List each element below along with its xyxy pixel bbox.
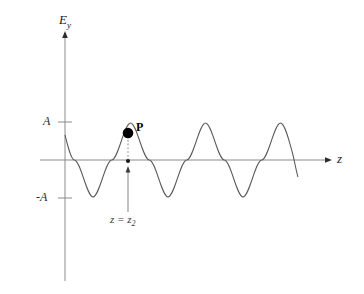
point-P-label: P (136, 121, 143, 133)
wave-diagram-figure: Ey z A -A P z = z2 (0, 0, 364, 294)
plot-canvas (0, 0, 364, 294)
arrow-up-icon (62, 31, 68, 38)
position-label: z = z2 (110, 214, 135, 228)
arrow-up-small-icon (126, 166, 131, 173)
y-axis-label-subscript: y (67, 20, 71, 30)
y-axis-label: Ey (59, 13, 71, 30)
arrow-right-icon (325, 157, 332, 163)
axis-intersection-marker (126, 159, 130, 163)
z-axis-label: z (337, 152, 342, 165)
y-axis-label-text: E (59, 12, 67, 27)
vertical-axis (62, 31, 68, 281)
tick-label-negative-amplitude: -A (36, 191, 47, 203)
position-label-subscript: 2 (131, 219, 135, 228)
point-P-marker (123, 128, 134, 139)
position-indicator-line (126, 166, 131, 212)
tick-label-positive-amplitude: A (43, 115, 50, 127)
position-label-text: z = z (110, 213, 131, 225)
